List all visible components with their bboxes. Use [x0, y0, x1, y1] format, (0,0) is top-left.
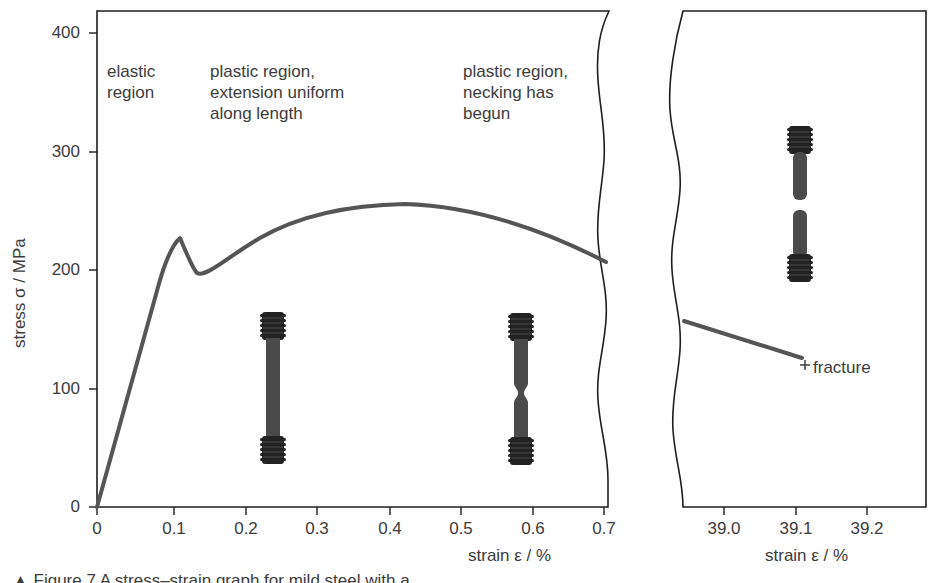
stress-strain-curve-broken	[684, 321, 802, 358]
y-tick-0: 0	[30, 497, 80, 517]
x-tick-39.0: 39.0	[699, 519, 749, 539]
x-tick-39.2: 39.2	[842, 519, 892, 539]
figure-caption-partial: ▲ Figure 7 A stress–strain graph for mil…	[12, 571, 429, 583]
y-axis-title: stress σ / MPa	[10, 238, 30, 348]
x-axis-ticks-main	[97, 507, 604, 515]
x-tick-0.1: 0.1	[149, 519, 199, 539]
y-tick-300: 300	[30, 142, 80, 162]
annotation-elastic-region: elastic region	[107, 61, 155, 103]
y-tick-100: 100	[30, 379, 80, 399]
y-tick-200: 200	[30, 260, 80, 280]
y-tick-400: 400	[30, 23, 80, 43]
x-tick-39.1: 39.1	[771, 519, 821, 539]
x-tick-0.7: 0.7	[579, 519, 629, 539]
x-tick-0.4: 0.4	[365, 519, 415, 539]
annotation-plastic-uniform: plastic region, extension uniform along …	[210, 61, 344, 124]
annotation-plastic-necking: plastic region, necking has begun	[463, 61, 568, 124]
specimen-uniform-icon	[260, 312, 286, 464]
x-tick-0.3: 0.3	[292, 519, 342, 539]
x-tick-0.6: 0.6	[508, 519, 558, 539]
x-axis-title-broken: strain ε / %	[765, 546, 848, 566]
x-axis-title-main: strain ε / %	[468, 546, 551, 566]
specimen-necking-icon	[508, 313, 534, 465]
fracture-marker-icon	[800, 360, 810, 370]
x-axis-ticks-broken	[724, 507, 867, 515]
annotation-fracture: fracture	[813, 357, 871, 378]
x-tick-0: 0	[72, 519, 122, 539]
specimen-fractured-icon	[787, 126, 813, 282]
x-tick-0.5: 0.5	[436, 519, 486, 539]
x-tick-0.2: 0.2	[221, 519, 271, 539]
y-axis-ticks	[89, 33, 97, 507]
